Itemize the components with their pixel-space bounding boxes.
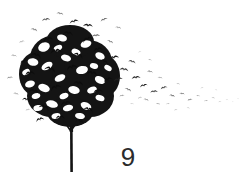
illustration-page: 9: [0, 0, 241, 190]
page-number: 9: [112, 141, 144, 173]
